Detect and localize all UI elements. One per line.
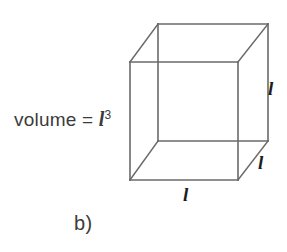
cube-edge-diagonal-top-left [130, 24, 158, 62]
formula-exponent: 3 [104, 108, 111, 122]
volume-formula: volume = l3 [14, 108, 111, 131]
edge-label-depth: l [258, 152, 263, 174]
cube-edge-diagonal-bottom-left [130, 141, 158, 180]
formula-prefix: volume = [14, 109, 99, 130]
figure-caption: b) [74, 212, 93, 235]
figure-container: volume = l3 l l l b) [0, 0, 287, 252]
edge-label-right: l [268, 78, 273, 100]
cube-edge-diagonal-bottom-right [238, 141, 268, 180]
cube-edge-diagonal-top-right [238, 24, 268, 62]
edge-label-bottom: l [183, 184, 188, 206]
